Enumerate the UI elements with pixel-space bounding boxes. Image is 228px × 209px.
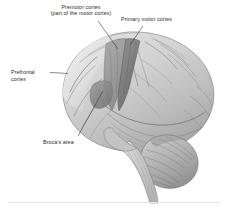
brain-illustration [0,0,228,209]
label-prefrontal-line2: cortex [11,76,35,83]
cerebrum-group [60,28,220,158]
brain-diagram-figure: Premotor cortex (part of the motor corte… [0,0,228,209]
label-prefrontal-cortex: Prefrontal cortex [11,69,35,82]
footer-rule [0,200,228,206]
label-premotor-cortex: Premotor cortex (part of the motor corte… [46,4,116,17]
label-primary-motor-cortex: Primary motor cortex [121,16,172,23]
label-premotor-line2: (part of the motor cortex) [46,10,116,17]
leader-prefrontal [50,73,68,74]
label-premotor-line1: Premotor cortex [46,4,116,11]
label-prefrontal-line1: Prefrontal [11,69,35,76]
label-brocas-area: Broca's area [43,139,74,146]
